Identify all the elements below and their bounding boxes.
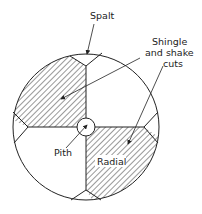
- spalt-label: Spalt: [90, 10, 115, 21]
- shingle-label-line3: cuts: [163, 58, 183, 69]
- shingle-cut-upper-left: [0, 40, 86, 127]
- shingle-label-line1: Shingle: [152, 36, 187, 47]
- pith-arrow: [66, 125, 87, 148]
- shingle-label-line2: and shake: [145, 47, 194, 58]
- pith-label: Pith: [54, 147, 72, 158]
- radial-label: Radial: [97, 156, 126, 167]
- spalt-arrow: [87, 24, 94, 54]
- log-cross-section-diagram: Spalt Shingle and shake cuts Radial Pith: [0, 0, 202, 214]
